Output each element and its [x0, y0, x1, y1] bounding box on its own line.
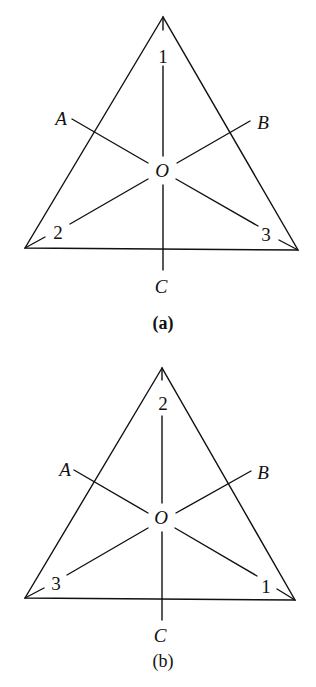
- vertex-number-top: 2: [158, 393, 168, 414]
- vertex-number-bottom-left: 2: [53, 222, 63, 243]
- label-c: C: [155, 276, 168, 297]
- caption-b: (b): [153, 651, 174, 672]
- vertex-number-top: 1: [158, 46, 168, 67]
- vertex-number-bottom-right: 3: [261, 224, 271, 245]
- axis-b-line: [177, 121, 250, 163]
- vertex-number-bottom-right: 1: [261, 576, 271, 597]
- label-b: B: [257, 112, 269, 133]
- axis-1-line: [175, 528, 257, 576]
- vertex-number-bottom-left: 3: [51, 573, 61, 594]
- label-c: C: [154, 625, 167, 646]
- label-b: B: [257, 462, 269, 483]
- figure-canvas: 1 2 3 A B O C (a) 2 3 1 A B O C (b): [0, 0, 316, 687]
- label-a: A: [57, 459, 71, 480]
- label-a: A: [53, 108, 67, 129]
- caption-a: (a): [153, 313, 174, 334]
- axis-2-line: [70, 179, 148, 224]
- axis-3-line: [67, 528, 148, 575]
- figure-b: 2 3 1 A B O C (b): [25, 368, 295, 672]
- axis-3-line: [176, 179, 258, 226]
- figure-a: 1 2 3 A B O C (a): [25, 17, 298, 334]
- axis-a-line: [72, 119, 148, 163]
- label-o: O: [155, 160, 169, 181]
- label-o: O: [154, 507, 168, 528]
- axis-a-line: [74, 470, 148, 513]
- axis-b-line: [176, 471, 251, 513]
